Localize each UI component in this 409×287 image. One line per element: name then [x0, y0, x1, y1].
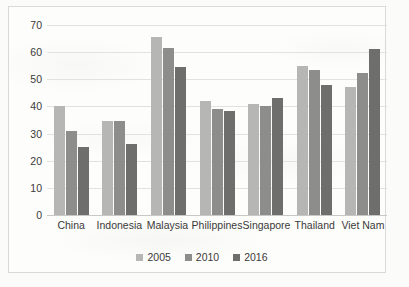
bar-2005-malaysia	[151, 37, 162, 215]
bar-2005-indonesia	[102, 121, 113, 215]
bar-2016-indonesia	[126, 144, 137, 215]
legend-label-2005: 2005	[147, 252, 170, 263]
y-tick-label-40: 40	[12, 101, 42, 112]
legend-swatch-2010	[185, 254, 192, 261]
bar-2010-viet-nam	[357, 73, 368, 216]
bar-2010-philippines	[212, 109, 223, 215]
y-tick-label-60: 60	[12, 47, 42, 58]
legend-label-2010: 2010	[196, 252, 219, 263]
bar-2005-china	[54, 106, 65, 215]
x-tick-label-philippines: Philippines	[192, 219, 243, 231]
x-tick-label-indonesia: Indonesia	[95, 219, 143, 231]
legend-swatch-2005	[136, 254, 143, 261]
bar-2005-viet-nam	[345, 87, 356, 215]
bar-2010-china	[66, 131, 77, 215]
y-tick-label-10: 10	[12, 183, 42, 194]
bar-2010-indonesia	[114, 121, 125, 215]
y-tick-label-70: 70	[12, 20, 42, 31]
bar-2010-singapore	[260, 106, 271, 215]
x-tick-label-singapore: Singapore	[242, 219, 290, 231]
legend-label-2016: 2016	[244, 252, 267, 263]
y-tick-label-50: 50	[12, 74, 42, 85]
bar-2005-thailand	[297, 66, 308, 215]
x-tick-label-china: China	[47, 219, 95, 231]
bar-2016-china	[78, 147, 89, 215]
y-tick-label-30: 30	[12, 128, 42, 139]
y-tick-label-20: 20	[12, 155, 42, 166]
chart-canvas: 706050403020100 ChinaIndonesiaMalaysiaPh…	[0, 0, 409, 287]
gridline-0	[47, 215, 387, 216]
bar-2016-thailand	[321, 85, 332, 215]
bars-layer	[47, 25, 387, 215]
bar-2010-thailand	[309, 70, 320, 215]
plot-area	[47, 25, 387, 215]
bar-group	[338, 25, 387, 215]
bar-2010-malaysia	[163, 48, 174, 215]
bar-2016-philippines	[224, 111, 235, 216]
legend-item-2005[interactable]: 2005	[136, 252, 170, 263]
bar-2005-philippines	[200, 101, 211, 215]
chart-legend: 200520102016	[9, 252, 395, 263]
legend-swatch-2016	[233, 254, 240, 261]
legend-item-2010[interactable]: 2010	[185, 252, 219, 263]
bar-2005-singapore	[248, 104, 259, 215]
bar-group	[144, 25, 193, 215]
bar-group	[96, 25, 145, 215]
bar-2016-malaysia	[175, 67, 186, 215]
bar-group	[290, 25, 339, 215]
legend-item-2016[interactable]: 2016	[233, 252, 267, 263]
x-tick-label-viet-nam: Viet Nam	[339, 219, 387, 231]
x-tick-label-malaysia: Malaysia	[143, 219, 191, 231]
bar-group	[193, 25, 242, 215]
x-tick-label-thailand: Thailand	[291, 219, 339, 231]
y-axis: 706050403020100	[9, 25, 42, 215]
chart-frame: 706050403020100 ChinaIndonesiaMalaysiaPh…	[8, 6, 386, 273]
bar-group	[241, 25, 290, 215]
y-tick-label-0: 0	[12, 210, 42, 221]
x-axis: ChinaIndonesiaMalaysiaPhilippinesSingapo…	[47, 219, 387, 231]
bar-2016-viet-nam	[369, 49, 380, 215]
bar-group	[47, 25, 96, 215]
bar-2016-singapore	[272, 98, 283, 215]
